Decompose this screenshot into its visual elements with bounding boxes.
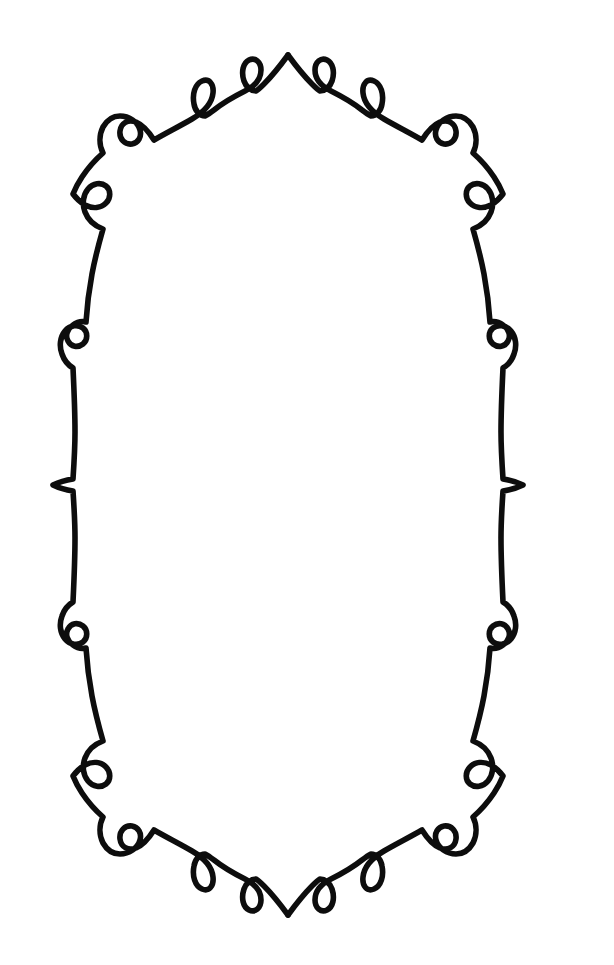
decorative-oval-frame bbox=[0, 0, 614, 965]
artboard bbox=[0, 0, 614, 965]
